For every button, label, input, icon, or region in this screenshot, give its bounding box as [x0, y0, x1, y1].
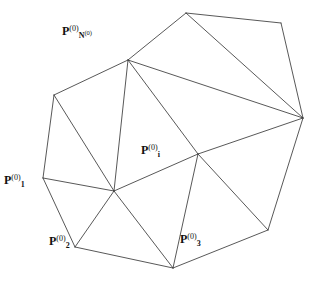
label-superscript-p-2: (0) [56, 234, 65, 243]
vertex-label-p-2: P(0)2 [49, 235, 70, 247]
mesh-edge [43, 178, 114, 191]
label-superscript-p-1: (0) [11, 173, 20, 182]
mesh-edge [186, 13, 281, 23]
mesh-edge [281, 23, 303, 118]
label-superscript-p-3: (0) [187, 232, 196, 241]
vertex-label-p-3: P(0)3 [180, 233, 201, 245]
mesh-edge [114, 191, 173, 268]
label-subscript-p-i: i [158, 150, 160, 159]
mesh-edge [128, 13, 186, 60]
mesh-edge [54, 60, 128, 95]
mesh-edge [114, 60, 128, 191]
mesh-edge [198, 118, 303, 154]
label-subscript-p-n: N(0) [79, 31, 92, 40]
label-subscript-p-1: 1 [21, 180, 25, 189]
label-subscript-superscript-p-n: (0) [84, 28, 92, 35]
mesh-edge [75, 191, 114, 247]
mesh-edge [186, 13, 303, 118]
label-subscript-p-3: 3 [197, 239, 201, 248]
label-superscript-p-n: (0) [69, 24, 78, 33]
mesh-edge-group [43, 13, 303, 268]
label-subscript-p-2: 2 [66, 241, 70, 250]
mesh-edge [43, 95, 54, 178]
mesh-edge [198, 154, 268, 230]
mesh-edge [128, 60, 198, 154]
mesh-edge [128, 60, 303, 118]
figure-canvas: P(0)N(0) P(0)i P(0)1 P(0)2 P(0)3 [0, 0, 313, 284]
mesh-edge [268, 118, 303, 230]
vertex-label-p-n: P(0)N(0) [62, 25, 92, 37]
label-superscript-p-i: (0) [148, 143, 157, 152]
vertex-label-p-1: P(0)1 [4, 174, 25, 186]
mesh-edge [54, 95, 114, 191]
mesh-edge [114, 154, 198, 191]
mesh-edge [75, 247, 173, 268]
mesh-edge [173, 154, 198, 268]
vertex-label-p-i: P(0)i [141, 144, 160, 156]
